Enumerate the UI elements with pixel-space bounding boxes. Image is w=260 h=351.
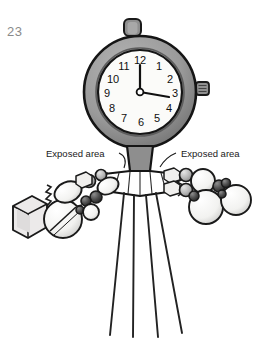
pocket-watch: 12 1 2 3 4 5 6 7 8 9 10 11 <box>84 19 209 148</box>
figure-container: 23 <box>0 0 260 351</box>
right-sphere-dark <box>218 190 226 198</box>
callout-label-exposed-area-right: Exposed area <box>181 148 240 159</box>
emitted-rays <box>110 193 182 337</box>
leader-line-left <box>119 153 125 168</box>
left-cube <box>13 196 47 238</box>
left-striped-sphere <box>44 200 82 238</box>
left-particle-cluster <box>13 170 121 239</box>
hands-pivot <box>137 89 144 96</box>
watch-bow-icon <box>124 19 141 36</box>
figure-illustration: 12 1 2 3 4 5 6 7 8 9 10 11 <box>0 0 260 351</box>
ray <box>146 195 158 337</box>
right-sphere-dark <box>222 179 231 188</box>
clock-numeral: 8 <box>109 102 115 114</box>
clock-numeral: 2 <box>167 73 173 85</box>
right-sphere-dark <box>189 191 199 201</box>
left-sphere-dark <box>90 191 102 203</box>
watch-crown-icon <box>196 82 209 95</box>
clock-numeral: 5 <box>154 112 160 124</box>
ray <box>110 193 124 335</box>
clock-numeral: 4 <box>166 102 172 114</box>
stem <box>127 146 153 171</box>
callout-label-exposed-area-left: Exposed area <box>46 148 105 159</box>
right-sphere-light <box>221 185 251 215</box>
clock-numeral: 9 <box>104 87 110 99</box>
right-particle-cluster <box>164 168 251 224</box>
leader-line-right <box>160 153 176 167</box>
clock-numeral: 11 <box>118 60 129 72</box>
clock-numeral: 6 <box>138 116 144 128</box>
left-sphere-light <box>83 204 99 220</box>
clock-numeral: 3 <box>172 87 178 99</box>
clock-numeral: 1 <box>156 60 162 72</box>
clock-numeral: 10 <box>107 73 119 85</box>
ray <box>133 195 134 337</box>
left-chain-cubes <box>76 172 92 188</box>
clock-numeral: 7 <box>121 112 127 124</box>
ray <box>156 193 182 333</box>
